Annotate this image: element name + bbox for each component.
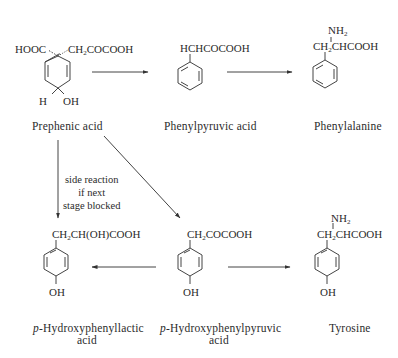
prephenic-acid-label: Prephenic acid [32,120,103,132]
ch-oh-cooh-text: CH(OH)COOH [71,228,141,240]
phenylalanine-label: Phenylalanine [314,120,382,132]
ch-text: CH [52,228,67,240]
subscript-2: 2 [347,218,351,226]
tyrosine-ch2chcooh: CH2CHCOOH [317,228,382,244]
prephenic-hooc: HOOC [15,43,46,55]
note-line-3: stage blocked [63,199,120,212]
cocooh-text: COCOOH [206,228,252,240]
hpla-oh: OH [49,286,65,298]
cocooh-text: COCOOH [87,43,133,55]
prephenic-h: H [39,95,47,107]
hpla-name-main: -Hydroxyphenyllactic [39,322,144,334]
nh-text: NH [331,212,347,224]
ch-text: CH [317,228,332,240]
side-reaction-note: side reaction if next stage blocked [63,173,120,212]
hppa-substituent: CH2COCOOH [187,228,252,244]
phenylalanine-ch2chcooh: CH2CHCOOH [313,40,378,56]
ch-text: CH [313,40,328,52]
prephenic-ch2cocooh: CH2COCOOH [68,43,133,59]
phenylpyruvic-ring [178,54,202,90]
phenylalanine-nh2: NH2 [328,24,347,40]
tyrosine-oh: OH [320,286,336,298]
chcooh-text: CHCOOH [336,228,382,240]
prephenic-oh: OH [63,95,79,107]
phenylpyruvic-acid-label: Phenylpyruvic acid [164,120,257,132]
ch-text: CH [68,43,83,55]
note-line-1: side reaction [63,173,120,186]
hppa-ring [178,240,202,284]
hppa-name-main: -Hydroxyphenylpyruvic [166,322,281,334]
tyrosine-label: Tyrosine [329,322,371,334]
hpla-label-line2: acid [77,334,97,346]
hpla-ring [44,240,68,284]
nh-text: NH [328,24,344,36]
chcooh-text: CHCOOH [332,40,378,52]
tyrosine-nh2: NH2 [331,212,350,228]
phenylpyruvic-hchcocooh: HCHCOCOOH [180,42,250,54]
hppa-label: p-Hydroxyphenylpyruvic [160,322,281,334]
subscript-2: 2 [344,30,348,38]
prephenic-ring [45,50,70,94]
note-line-2: if next [63,186,120,199]
hpla-substituent: CH2CH(OH)COOH [52,228,140,244]
hppa-oh: OH [183,286,199,298]
ch-text: CH [187,228,202,240]
hppa-label-line2: acid [209,334,229,346]
hpla-label: p-Hydroxyphenyllactic [33,322,144,334]
